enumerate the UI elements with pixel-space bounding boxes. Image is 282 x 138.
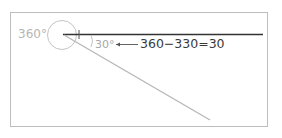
equation-label: 360−330=30 (140, 38, 225, 51)
full-angle-label: 360° (18, 28, 47, 40)
result-angle-label: 30° (95, 39, 115, 50)
angle-diagram (0, 0, 282, 138)
arrow-head-icon (116, 43, 120, 47)
angle-arc (91, 35, 93, 47)
